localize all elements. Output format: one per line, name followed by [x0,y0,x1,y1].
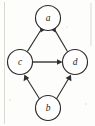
paper-speck [66,26,68,28]
edge-b-to-d-line [56,78,68,99]
node-b-label: b [46,103,51,113]
node-b[interactable]: b [36,96,61,121]
edge-d-to-a-line [54,29,68,52]
edge-c-to-d [33,59,63,65]
node-d-label: d [73,57,78,67]
node-a-label: a [46,13,51,23]
paper-speck [85,103,87,105]
edge-b-to-d [56,75,71,99]
edge-b-to-c-line [27,78,40,99]
node-c[interactable]: c [8,50,33,75]
edge-b-to-d-arrowhead [66,75,72,82]
paper-speck [9,99,11,101]
node-d[interactable]: d [63,50,88,75]
figure-container: a c d b [0,0,95,126]
directed-graph-svg: a c d b [0,0,95,126]
edge-b-to-c [24,75,40,99]
edge-c-to-a-line [27,28,42,51]
edge-c-to-d-arrowhead [57,59,63,65]
node-a[interactable]: a [36,6,61,31]
